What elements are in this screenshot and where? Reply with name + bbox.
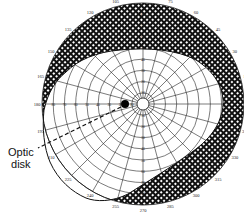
optic-disk-caption: Optic disk	[8, 146, 34, 170]
meridian-label: 300	[193, 193, 201, 198]
meridian-label: 135	[65, 27, 73, 32]
radial-scale-label: 20	[141, 80, 145, 84]
radial-scale-label: 80	[141, 192, 145, 196]
radial-scale-label: 10	[141, 91, 145, 95]
radial-scale-label: 30	[108, 103, 112, 107]
radial-scale-label: 30	[141, 136, 145, 140]
caption-line-2: disk	[8, 158, 34, 170]
meridian-label: 30	[233, 49, 238, 54]
radial-scale-label: 70	[63, 103, 67, 107]
radial-scale-label: 60	[74, 103, 78, 107]
radial-scale-label: 10	[141, 114, 145, 118]
meridian-label: 330	[231, 155, 239, 160]
meridian-line	[56, 107, 138, 155]
radial-scale-label: 80	[141, 13, 145, 17]
meridian-label: 105	[112, 0, 120, 4]
radial-scale-label: 70	[141, 181, 145, 185]
radial-scale-label: 40	[96, 103, 100, 107]
meridian-label: 210	[48, 155, 56, 160]
meridian-label: 285	[167, 204, 175, 209]
radial-scale-label: 40	[141, 58, 145, 62]
meridian-line	[72, 108, 139, 175]
meridian-label: 270	[140, 208, 148, 213]
radial-scale-label: 80	[51, 103, 55, 107]
radial-scale-label: 50	[85, 103, 89, 107]
meridian-label: 45	[216, 27, 221, 32]
meridian-label: 225	[65, 177, 73, 182]
meridian-label: 165	[37, 74, 45, 79]
meridian-label: 60	[194, 10, 199, 15]
radial-scale-label: 50	[141, 159, 145, 163]
meridian-label: 180	[34, 102, 42, 107]
radial-scale-label: 20	[141, 125, 145, 129]
meridian-line	[93, 109, 141, 191]
meridian-label: 120	[87, 10, 95, 15]
radial-scale-label: 20	[119, 103, 123, 107]
meridian-label: 240	[87, 193, 95, 198]
caption-line-1: Optic	[8, 146, 34, 158]
meridian-label: 75	[168, 0, 173, 4]
fixation-circle	[137, 98, 149, 110]
meridian-label: 15	[243, 74, 244, 79]
radial-scale-label: 60	[141, 170, 145, 174]
meridian-label: 345	[242, 129, 244, 134]
optic-disk-leader	[38, 107, 121, 148]
radial-scale-label: 50	[141, 46, 145, 50]
radial-scale-label: 60	[141, 35, 145, 39]
meridian-label: 255	[112, 204, 120, 209]
visual-field-chart: 0153045607590105120135150165180195210225…	[0, 0, 244, 213]
radial-scale-label: 30	[141, 69, 145, 73]
radial-scale-label: 70	[141, 24, 145, 28]
radial-scale-label: 40	[141, 147, 145, 151]
meridian-label: 150	[48, 49, 56, 54]
meridian-label: 315	[215, 177, 223, 182]
radial-scale-label: 10	[130, 103, 134, 107]
meridian-label: 90	[141, 0, 146, 1]
meridian-label: 195	[37, 129, 45, 134]
